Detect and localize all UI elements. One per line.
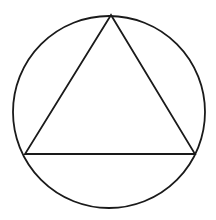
circumscribed-circle	[13, 16, 205, 208]
diagram-canvas	[0, 0, 216, 220]
